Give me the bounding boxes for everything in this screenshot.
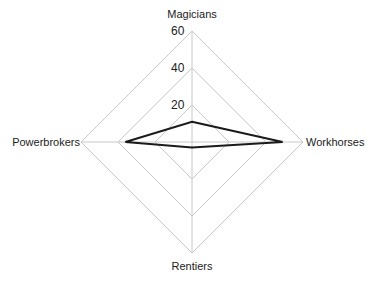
axis-label-powerbrokers: Powerbrokers (12, 136, 80, 148)
radar-chart: 60 40 20 Magicians Workhorses Rentiers P… (0, 0, 372, 282)
tick-label-20: 20 (171, 98, 185, 112)
axis-label-magicians: Magicians (167, 8, 217, 20)
axis-label-rentiers: Rentiers (172, 260, 213, 272)
axis-label-workhorses: Workhorses (306, 136, 365, 148)
tick-label-40: 40 (171, 61, 185, 75)
tick-label-60: 60 (171, 24, 185, 38)
